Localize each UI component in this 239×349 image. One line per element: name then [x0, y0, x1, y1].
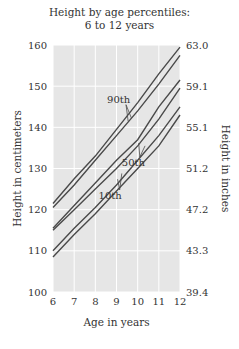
percentile-label: 50th — [122, 157, 146, 168]
y-tick-left: 130 — [28, 163, 47, 174]
x-tick: 11 — [152, 296, 165, 307]
line-chart: 16015014013012011010063.059.155.151.247.… — [0, 0, 239, 349]
x-tick: 9 — [113, 296, 119, 307]
y-axis-label-left: Height in centimeters — [11, 110, 23, 227]
x-axis-label: Age in years — [82, 316, 149, 328]
x-tick: 6 — [50, 296, 56, 307]
y-tick-right: 47.2 — [186, 204, 208, 215]
y-tick-right: 51.2 — [186, 163, 208, 174]
percentile-label: 10th — [99, 190, 123, 201]
y-tick-right: 63.0 — [186, 40, 208, 51]
y-tick-right: 59.1 — [186, 81, 208, 92]
percentile-label: 90th — [107, 94, 131, 105]
y-tick-left: 160 — [28, 40, 47, 51]
y-tick-right: 55.1 — [186, 122, 208, 133]
y-tick-left: 110 — [28, 245, 47, 256]
y-tick-left: 150 — [28, 81, 47, 92]
y-tick-left: 100 — [28, 287, 47, 298]
y-tick-left: 140 — [28, 122, 47, 133]
x-tick: 10 — [131, 296, 144, 307]
y-tick-right: 43.3 — [186, 245, 208, 256]
y-axis-label-right: Height in inches — [220, 125, 232, 213]
x-tick: 12 — [174, 296, 187, 307]
x-tick: 7 — [71, 296, 77, 307]
y-tick-left: 120 — [28, 204, 47, 215]
y-tick-right: 39.4 — [186, 287, 208, 298]
x-tick: 8 — [92, 296, 98, 307]
